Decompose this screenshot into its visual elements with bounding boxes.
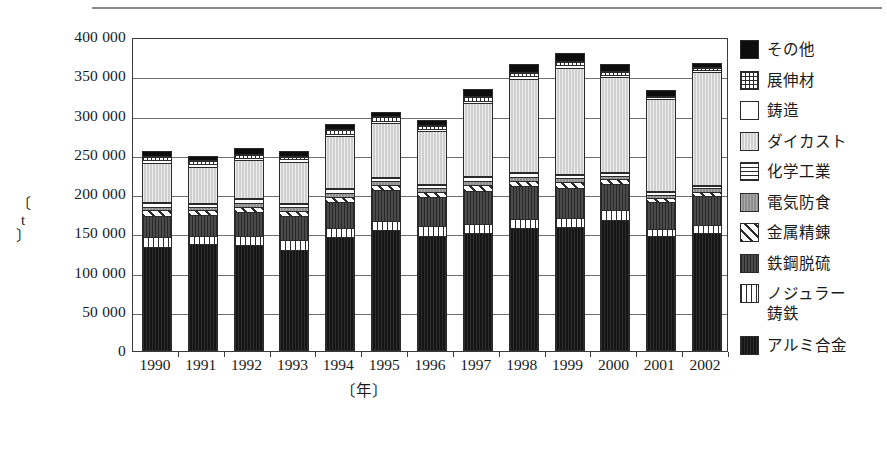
legend-item-label: 化学工業 xyxy=(767,162,831,181)
legend-item-1[interactable]: 展伸材 xyxy=(740,71,887,90)
gridline xyxy=(133,78,727,79)
bar-segment-diecast xyxy=(371,123,401,176)
bar-segment-desulf xyxy=(142,216,172,237)
bar-1996[interactable] xyxy=(417,120,447,351)
bar-segment-desulf xyxy=(325,202,355,228)
bar-segment-desulf xyxy=(463,191,493,224)
legend-item-label: 鋳造 xyxy=(767,101,799,120)
bar-segment-desulf xyxy=(555,188,585,218)
bar-1994[interactable] xyxy=(325,124,355,351)
bar-segment-nodular xyxy=(600,210,630,219)
legend-item-label: ダイカスト xyxy=(767,132,847,151)
y-axis-tick-label: 50 000 xyxy=(8,304,126,320)
legend-item-0[interactable]: その他 xyxy=(740,40,887,59)
bar-segment-diecast xyxy=(188,167,218,203)
legend-item-label: 展伸材 xyxy=(767,71,815,90)
bar-segment-other xyxy=(463,89,493,96)
bar-segment-other xyxy=(555,53,585,61)
legend-item-6[interactable]: 金属精錬 xyxy=(740,223,887,242)
bar-segment-alu xyxy=(555,227,585,351)
bar-segment-alu xyxy=(371,230,401,351)
bar-1991[interactable] xyxy=(188,156,218,351)
legend-swatch-icon xyxy=(740,336,759,355)
bar-segment-other xyxy=(509,64,539,71)
y-axis-tick-label: 400 000 xyxy=(8,29,126,45)
x-axis-tick-mark xyxy=(728,352,729,357)
bar-segment-nodular xyxy=(279,240,309,249)
bar-segment-diecast xyxy=(142,163,172,202)
bar-segment-other xyxy=(600,64,630,71)
bar-segment-alu xyxy=(142,247,172,351)
legend-item-7[interactable]: 鉄鋼脱硫 xyxy=(740,254,887,273)
bar-segment-nodular xyxy=(646,229,676,236)
legend-item-8[interactable]: ノジュラー 鋳鉄 xyxy=(740,284,887,324)
y-axis-tick-label: 0 xyxy=(8,343,126,359)
bar-segment-desulf xyxy=(646,202,676,229)
bar-segment-diecast xyxy=(279,162,309,203)
bar-segment-diecast xyxy=(417,131,447,184)
bar-segment-alu xyxy=(417,236,447,351)
bar-segment-alu xyxy=(509,228,539,350)
legend-item-5[interactable]: 電気防食 xyxy=(740,193,887,212)
legend-swatch-icon xyxy=(740,71,759,90)
legend-swatch-icon xyxy=(740,40,759,59)
bar-segment-desulf xyxy=(692,196,722,226)
legend-item-4[interactable]: 化学工業 xyxy=(740,162,887,181)
bar-segment-diecast xyxy=(463,103,493,176)
legend-swatch-icon xyxy=(740,284,759,303)
bar-segment-alu xyxy=(600,220,630,351)
legend-swatch-icon xyxy=(740,162,759,181)
bar-segment-diecast xyxy=(325,136,355,189)
legend-item-label: ノジュラー 鋳鉄 xyxy=(767,284,846,324)
y-axis-tick-label: 250 000 xyxy=(8,147,126,163)
bar-segment-desulf xyxy=(188,215,218,235)
x-axis-tick-label: 2002 xyxy=(675,357,735,373)
bar-segment-alu xyxy=(325,237,355,351)
bar-1999[interactable] xyxy=(555,53,585,351)
legend-item-label: 金属精錬 xyxy=(767,223,831,242)
bar-segment-desulf xyxy=(417,197,447,226)
legend-swatch-icon xyxy=(740,254,759,273)
bar-segment-alu xyxy=(463,233,493,351)
legend-swatch-icon xyxy=(740,132,759,151)
bar-2000[interactable] xyxy=(600,64,630,351)
bar-segment-desulf xyxy=(234,212,264,236)
bar-segment-nodular xyxy=(371,221,401,230)
bar-segment-diecast xyxy=(555,68,585,174)
bar-1995[interactable] xyxy=(371,112,401,351)
bar-1998[interactable] xyxy=(509,64,539,351)
legend-item-9[interactable]: アルミ合金 xyxy=(740,336,887,355)
bar-segment-nodular xyxy=(142,237,172,246)
bar-segment-diecast xyxy=(234,160,264,198)
bar-1997[interactable] xyxy=(463,89,493,351)
y-axis-tick-label: 100 000 xyxy=(8,265,126,281)
bar-segment-nodular xyxy=(463,224,493,233)
gridline xyxy=(133,118,727,119)
legend-item-2[interactable]: 鋳造 xyxy=(740,101,887,120)
legend-item-label: 鉄鋼脱硫 xyxy=(767,254,831,273)
bar-segment-nodular xyxy=(509,219,539,228)
bar-1990[interactable] xyxy=(142,151,172,351)
bar-segment-desulf xyxy=(509,186,539,219)
legend-swatch-icon xyxy=(740,223,759,242)
bar-segment-desulf xyxy=(371,190,401,221)
y-axis-tick-label: 300 000 xyxy=(8,108,126,124)
legend-item-3[interactable]: ダイカスト xyxy=(740,132,887,151)
bar-segment-diecast xyxy=(646,99,676,191)
bar-segment-diecast xyxy=(692,72,722,185)
legend-item-label: 電気防食 xyxy=(767,193,831,212)
bar-1992[interactable] xyxy=(234,148,264,351)
legend-item-label: その他 xyxy=(767,40,815,59)
bar-segment-diecast xyxy=(600,77,630,172)
bar-2001[interactable] xyxy=(646,90,676,351)
legend-item-label: アルミ合金 xyxy=(767,336,847,355)
legend-swatch-icon xyxy=(740,101,759,120)
bar-segment-nodular xyxy=(555,218,585,227)
bar-segment-nodular xyxy=(417,226,447,235)
bar-2002[interactable] xyxy=(692,63,722,351)
bar-1993[interactable] xyxy=(279,151,309,351)
bar-segment-alu xyxy=(188,244,218,351)
bar-segment-nodular xyxy=(325,228,355,237)
bar-segment-alu xyxy=(692,233,722,351)
bar-segment-alu xyxy=(234,245,264,351)
